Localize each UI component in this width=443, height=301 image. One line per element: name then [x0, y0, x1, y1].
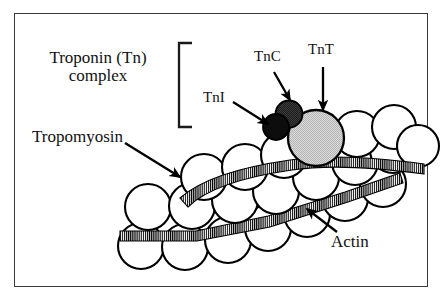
actin-label: Actin: [331, 233, 369, 251]
thin-filament-illustration: [0, 0, 443, 301]
figure-canvas: Troponin (Tn) complex Tropomyosin Actin …: [0, 0, 443, 301]
tnt-label: TnT: [308, 41, 334, 57]
tni-arrow: [233, 102, 268, 124]
tnc-label: TnC: [254, 48, 281, 64]
troponin-bracket: [179, 43, 192, 127]
tni-label: TnI: [203, 89, 225, 105]
tropomyosin-arrow: [125, 143, 180, 177]
tnc-arrow: [274, 72, 290, 100]
troponin-complex-label: Troponin (Tn) complex: [22, 49, 174, 86]
tropomyosin-label: Tropomyosin: [32, 128, 123, 146]
tni-sphere: [263, 114, 289, 140]
